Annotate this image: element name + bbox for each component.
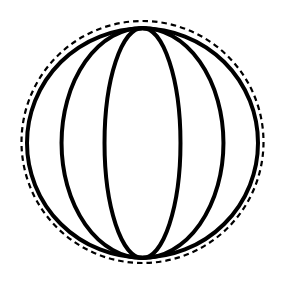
background-rect (0, 0, 284, 293)
figure-canvas (0, 0, 284, 293)
sphere-diagram-svg (0, 0, 284, 293)
